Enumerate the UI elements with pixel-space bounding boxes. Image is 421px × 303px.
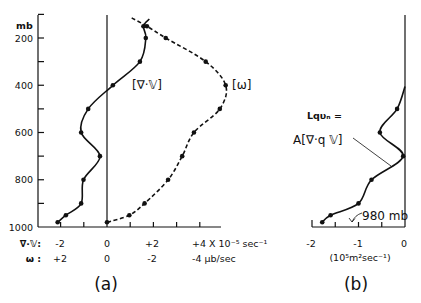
x-tick-label: 0	[401, 238, 407, 249]
y-tick-label: 800	[15, 174, 33, 185]
panel-b: Lqυₙ = A[∇·q 𝕍] 980 mb -2 -1 0 (10⁵m²sec…	[293, 15, 408, 294]
y-tick-label: 200	[15, 33, 33, 44]
y-tick-label: 1000	[9, 222, 33, 233]
data-point	[369, 177, 374, 182]
b-curve	[322, 86, 405, 222]
x-scale-row-omega: ω : +2 0 -2 -4 μb/sec	[26, 253, 236, 264]
data-point	[98, 154, 103, 159]
equation-line-1: Lqυₙ =	[307, 110, 342, 121]
x-tick-label: 0	[104, 238, 110, 249]
data-point	[163, 36, 168, 41]
x-tick-label: +2	[53, 253, 67, 264]
x-tick-label: -2	[55, 238, 64, 249]
data-point	[81, 177, 86, 182]
data-point	[79, 201, 84, 206]
data-point	[401, 154, 406, 159]
data-point	[79, 130, 84, 135]
data-point	[138, 59, 143, 64]
divergence-series-label: [∇·𝕍]	[132, 78, 162, 92]
panel-label-a: (a)	[94, 274, 118, 294]
x-tick-label: 0	[104, 253, 110, 264]
data-point	[143, 36, 148, 41]
figure: mb 200 400 600 800 1000 [∇·𝕍] [ω] ∇·𝕍: -…	[0, 0, 421, 303]
axis-ticks-a	[38, 14, 200, 227]
data-point	[378, 130, 383, 135]
x-tick-label: -2	[306, 238, 315, 249]
data-point	[223, 83, 228, 88]
data-point	[145, 24, 150, 29]
x-tick-label: -4 μb/sec	[192, 253, 236, 264]
data-point	[64, 213, 69, 218]
x-tick-label: +2	[145, 238, 159, 249]
panel-label-b: (b)	[344, 274, 368, 294]
data-point	[105, 220, 110, 225]
data-point	[111, 83, 116, 88]
data-point	[55, 220, 60, 225]
data-point	[203, 59, 208, 64]
omega-curve	[107, 18, 226, 222]
equation-line-2: A[∇·q 𝕍]	[293, 133, 343, 147]
data-point	[86, 107, 91, 112]
row-label: ∇·𝕍:	[20, 238, 41, 249]
omega-series-label: [ω]	[232, 78, 251, 92]
data-point	[142, 201, 147, 206]
panel-a: mb 200 400 600 800 1000 [∇·𝕍] [ω] ∇·𝕍: -…	[9, 14, 268, 294]
data-point	[127, 213, 132, 218]
data-point	[328, 213, 333, 218]
y-tick-label: 600	[15, 127, 33, 138]
data-point	[395, 107, 400, 112]
arrow-icon	[349, 213, 362, 222]
leader-line	[353, 138, 391, 166]
series-group-a	[55, 18, 228, 225]
data-point	[218, 107, 223, 112]
data-point	[356, 201, 361, 206]
x-tick-label: +4 X 10⁻⁵ sec⁻¹	[192, 238, 268, 249]
y-tick-label: 400	[15, 80, 33, 91]
data-point	[320, 220, 325, 225]
data-point	[192, 130, 197, 135]
x-tick-label: -1	[353, 238, 362, 249]
series-group-b	[320, 86, 406, 224]
div-curve	[58, 19, 150, 222]
x-scale-row-divergence: ∇·𝕍: -2 0 +2 +4 X 10⁻⁵ sec⁻¹	[20, 238, 268, 249]
data-point	[180, 154, 185, 159]
annotation-980mb: 980 mb	[362, 209, 408, 223]
y-unit-label: mb	[16, 20, 33, 31]
x-unit-label: (10⁵m²sec⁻¹)	[329, 252, 390, 263]
row-label: ω :	[26, 253, 41, 264]
data-point	[166, 177, 171, 182]
x-tick-label: -2	[147, 253, 156, 264]
